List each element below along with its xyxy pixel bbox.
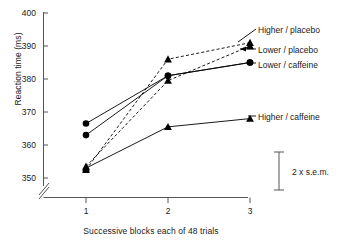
axis-lines [39, 12, 248, 199]
series-higher-placebo [82, 39, 254, 173]
series-line [86, 46, 250, 166]
leader-arrow-lower-placebo [240, 47, 246, 52]
data-point-circle [83, 132, 90, 139]
data-point-triangle [164, 55, 172, 62]
data-series-layer [82, 39, 254, 173]
leader-higher-placebo [238, 29, 256, 42]
x-axis-ticks [86, 198, 250, 204]
data-point-circle [165, 72, 172, 79]
error-bar-glyph [274, 152, 284, 190]
data-point-circle [247, 59, 254, 66]
chart-figure: Reaction time (ms) 400 390 380 370 360 3… [0, 0, 345, 248]
plot-canvas [0, 0, 345, 248]
series-line [86, 63, 250, 124]
data-point-circle [83, 120, 90, 127]
series-lower-caffeine-upper-block-1-point [83, 59, 254, 127]
y-axis-ticks [44, 13, 49, 178]
legend-leader-lines [238, 29, 256, 116]
